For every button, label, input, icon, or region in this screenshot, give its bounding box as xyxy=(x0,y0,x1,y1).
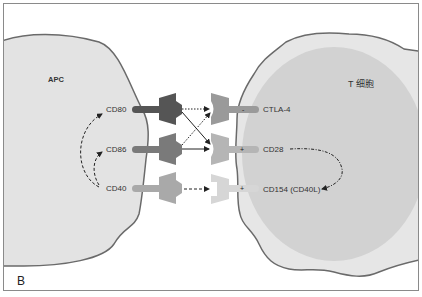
panel-letter: B xyxy=(17,274,25,288)
cd28-sign: + xyxy=(240,146,244,153)
arrow-cd86-ctla4 xyxy=(182,113,210,145)
tcell-title: T 细胞 xyxy=(348,77,374,90)
ctla4-label: CTLA-4 xyxy=(263,105,291,114)
cd40-label: CD40 xyxy=(106,184,126,193)
diagram-canvas: - + + xyxy=(4,4,419,291)
cd28-label: CD28 xyxy=(263,145,283,154)
apc-title: APC xyxy=(48,75,64,84)
cd80-label: CD80 xyxy=(106,105,126,114)
arrow-cd80-cd28 xyxy=(182,112,210,144)
tcell-inner xyxy=(242,47,419,261)
cd86-label: CD86 xyxy=(106,145,126,154)
apc-cell xyxy=(4,35,148,267)
cd154-sign: + xyxy=(240,185,244,192)
cd154-label: CD154 (CD40L) xyxy=(263,185,320,194)
diagram-frame: - + + APC T 细胞 CD80 CD86 CD40 CTLA-4 CD2… xyxy=(3,3,419,291)
